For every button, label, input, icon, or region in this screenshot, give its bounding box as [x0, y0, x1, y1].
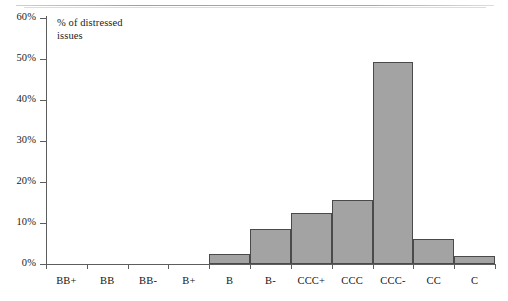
y-axis-tick-label: 30% — [0, 134, 36, 145]
chart-title-line-2: issues — [57, 29, 187, 42]
chart-screenshot: % of distressed issues 0%10%20%30%40%50%… — [0, 0, 508, 301]
y-axis-tick-label: 10% — [0, 216, 36, 227]
x-axis-tick — [454, 264, 455, 269]
y-axis-tick — [40, 18, 46, 19]
y-axis-tick-label: 60% — [0, 11, 36, 22]
x-axis-tick — [128, 264, 129, 269]
x-axis-tick — [373, 264, 374, 269]
x-axis-tick — [332, 264, 333, 269]
bar — [209, 254, 250, 264]
y-axis-tick — [40, 182, 46, 183]
bar — [291, 213, 332, 264]
x-axis-tick — [46, 264, 47, 269]
y-axis-line — [46, 16, 47, 265]
chart-title: % of distressed issues — [57, 16, 187, 42]
y-axis-tick-label: 20% — [0, 175, 36, 186]
y-axis-tick-label: 40% — [0, 93, 36, 104]
bar — [250, 229, 291, 264]
bar — [454, 256, 495, 264]
y-axis-tick-label: 0% — [0, 257, 36, 268]
x-axis-tick — [291, 264, 292, 269]
y-axis-tick-label: 50% — [0, 52, 36, 63]
x-axis-tick — [495, 264, 496, 269]
x-axis-line — [46, 264, 495, 265]
bar — [332, 200, 373, 264]
chart-title-line-1: % of distressed — [57, 16, 187, 29]
x-axis-tick — [209, 264, 210, 269]
y-axis-tick — [40, 141, 46, 142]
bar-chart-plot-area: % of distressed issues 0%10%20%30%40%50%… — [0, 0, 508, 301]
y-axis-tick — [40, 223, 46, 224]
bar — [373, 62, 413, 264]
bar — [413, 239, 454, 264]
y-axis-tick — [40, 59, 46, 60]
y-axis-tick — [40, 100, 46, 101]
x-axis-tick — [413, 264, 414, 269]
x-axis-tick — [87, 264, 88, 269]
x-axis-tick — [250, 264, 251, 269]
x-axis-label: C — [445, 275, 505, 286]
x-axis-tick — [168, 264, 169, 269]
